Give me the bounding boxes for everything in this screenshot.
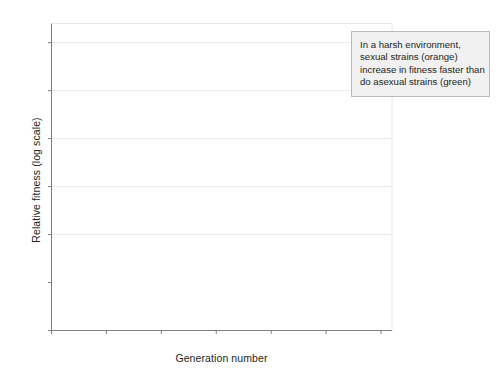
annotation-line-1: In a harsh environment, [360, 39, 482, 51]
annotation-callout: In a harsh environment, sexual strains (… [351, 31, 490, 97]
chart-figure: Relative fitness (log scale) Generation … [0, 0, 496, 375]
x-axis-title: Generation number [51, 352, 392, 364]
annotation-line-2: sexual strains (orange) [360, 51, 482, 63]
annotation-line-4: do asexual strains (green) [360, 76, 482, 88]
annotation-line-3: increase in fitness faster than [360, 64, 482, 76]
y-axis-title: Relative fitness (log scale) [30, 80, 42, 280]
